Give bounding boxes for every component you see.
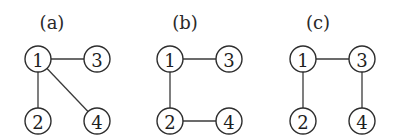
node-4: 4 — [84, 108, 110, 134]
node-label: 2 — [164, 112, 175, 133]
node-2: 2 — [157, 108, 183, 134]
graph-panel-b: (b)1234 — [157, 12, 242, 135]
node-label: 3 — [91, 50, 102, 71]
node-label: 1 — [297, 50, 308, 71]
node-4: 4 — [216, 108, 242, 134]
node-1: 1 — [157, 46, 183, 72]
node-2: 2 — [290, 108, 316, 134]
panel-label: (b) — [172, 12, 198, 33]
graph-diagram: (a)1234(b)1234(c)1234 — [0, 0, 399, 139]
panel-label: (c) — [306, 12, 330, 33]
graph-panel-a: (a)1234 — [25, 12, 110, 135]
node-label: 1 — [32, 50, 43, 71]
node-label: 4 — [356, 112, 367, 133]
node-4: 4 — [349, 108, 375, 134]
node-3: 3 — [349, 46, 375, 72]
node-2: 2 — [25, 108, 51, 134]
node-label: 2 — [32, 112, 43, 133]
node-label: 3 — [223, 50, 234, 71]
node-3: 3 — [84, 46, 110, 72]
node-label: 4 — [223, 112, 234, 133]
node-1: 1 — [290, 46, 316, 72]
node-label: 2 — [297, 112, 308, 133]
node-label: 3 — [356, 50, 367, 71]
node-label: 1 — [164, 50, 175, 71]
graph-panel-c: (c)1234 — [290, 12, 375, 135]
node-3: 3 — [216, 46, 242, 72]
panel-label: (a) — [40, 12, 65, 33]
node-label: 4 — [91, 112, 102, 133]
node-1: 1 — [25, 46, 51, 72]
